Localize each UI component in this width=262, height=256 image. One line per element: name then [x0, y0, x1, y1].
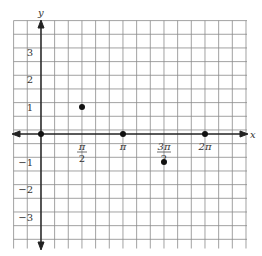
point-pi-0: [120, 131, 126, 137]
point-2pi-0: [202, 131, 208, 137]
x-tick-2pi: 2π: [198, 141, 212, 152]
x-axis-label: x: [250, 129, 256, 140]
x-tick-pi-half-numerator: π: [78, 141, 86, 152]
y-axis-label: y: [37, 7, 44, 18]
coordinate-plane: y x 3 2 1 −1 −2 −3 π 2 π 3π 2 2π: [0, 0, 262, 256]
y-tick-minus-3: −3: [18, 212, 33, 223]
x-tick-3pi-half-numerator: 3π: [158, 141, 171, 152]
x-axis-left-arrow-icon: [12, 131, 20, 137]
x-axis-right-arrow-icon: [240, 131, 248, 137]
point-3pi-half-minus-1: [161, 159, 167, 165]
y-axis-up-arrow-icon: [38, 20, 44, 28]
point-pi-half-1: [79, 104, 85, 110]
y-tick-2: 2: [27, 74, 33, 85]
y-tick-3: 3: [27, 47, 33, 58]
y-tick-minus-1: −1: [18, 157, 33, 168]
y-axis-down-arrow-icon: [38, 242, 44, 250]
x-axis: [12, 131, 248, 137]
y-tick-1: 1: [27, 102, 33, 113]
point-origin: [38, 131, 44, 137]
y-tick-minus-2: −2: [18, 184, 33, 195]
x-tick-pi: π: [119, 141, 127, 152]
x-tick-pi-half-denominator: 2: [79, 153, 85, 164]
